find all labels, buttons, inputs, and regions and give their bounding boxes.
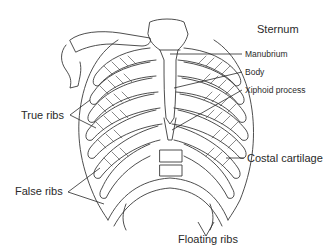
xiphoid-process-label: Xiphoid process: [245, 86, 305, 95]
xiphoid-leader: [172, 90, 242, 130]
rib-cage-diagram: Sternum Manubrium Body Xiphoid process T…: [0, 0, 335, 252]
manubrium-label: Manubrium: [245, 50, 288, 59]
rib-cage-illustration: [0, 0, 335, 252]
costal-cartilage-label: Costal cartilage: [247, 153, 323, 164]
false-ribs-label: False ribs: [15, 186, 63, 197]
body-leader: [174, 72, 242, 88]
floating-ribs-label: Floating ribs: [178, 234, 238, 245]
true-ribs-label: True ribs: [21, 110, 64, 121]
body-label: Body: [245, 68, 264, 77]
sternum-heading: Sternum: [257, 24, 299, 35]
